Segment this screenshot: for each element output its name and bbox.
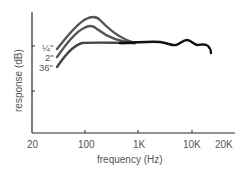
x-tick-label-20k: 20K <box>215 139 233 150</box>
curve-quarter-inch <box>57 17 135 49</box>
curve-36-inch <box>57 43 135 67</box>
series-label-36-inch: 36" <box>39 62 53 73</box>
x-tick-label-20: 20 <box>27 139 39 150</box>
x-tick-label-1k: 1K <box>133 139 146 150</box>
y-axis-title: response (dB) <box>13 49 24 112</box>
frequency-response-chart: 20 100 1K 10K 20K frequency (Hz) respons… <box>0 0 247 174</box>
x-axis-title: frequency (Hz) <box>97 154 163 165</box>
x-tick-label-10k: 10K <box>183 139 201 150</box>
curve-common-high-freq <box>120 40 211 53</box>
x-tick-label-100: 100 <box>78 139 95 150</box>
